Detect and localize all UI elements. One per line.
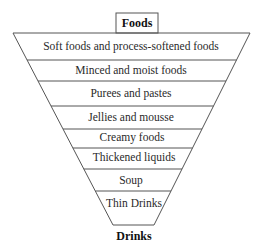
level-8-label: Thin Drinks xyxy=(106,197,162,209)
drinks-label: Drinks xyxy=(116,229,152,243)
inverted-pyramid-diagram: Foods Soft foods and process-softened fo… xyxy=(0,0,259,249)
level-2-label: Minced and moist foods xyxy=(75,64,187,76)
foods-label: Foods xyxy=(122,16,153,30)
level-3-label: Purees and pastes xyxy=(90,87,172,100)
level-5-label: Creamy foods xyxy=(100,131,165,144)
level-1-label: Soft foods and process-softened foods xyxy=(43,40,219,53)
level-dividers xyxy=(27,60,236,191)
level-7-label: Soup xyxy=(119,174,143,187)
level-4-label: Jellies and mousse xyxy=(88,111,174,123)
level-6-label: Thickened liquids xyxy=(93,151,176,164)
